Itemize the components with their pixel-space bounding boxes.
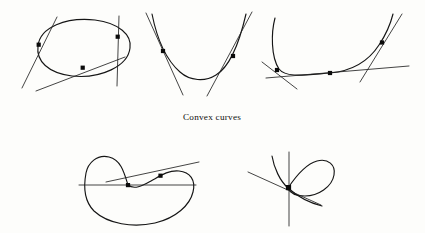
node-diagonal-line [248, 172, 321, 205]
figure-node [0, 0, 425, 233]
node-curve-group [272, 156, 334, 206]
node-curve-lobe [288, 160, 334, 196]
figure-plate: Convex curves [0, 0, 425, 233]
node-intersection-point [286, 185, 291, 190]
node-line-group [248, 152, 321, 226]
node-point [286, 185, 291, 190]
node-curve-loop [272, 156, 322, 206]
